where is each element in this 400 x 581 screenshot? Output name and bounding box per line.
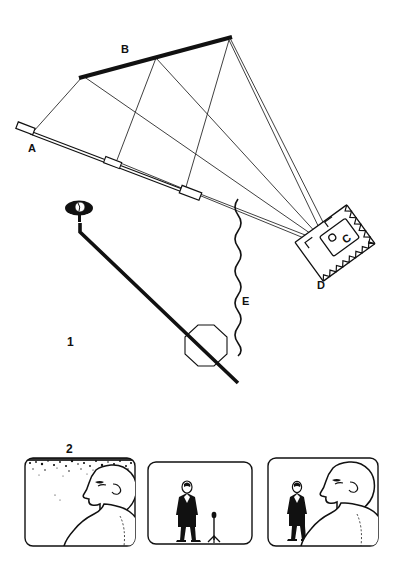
eye-post (78, 215, 81, 222)
microphone-head (212, 512, 217, 518)
figure-canvas: C A B D E 1 2 (0, 0, 400, 581)
frame-left (25, 458, 136, 546)
technical-diagram-svg: C A B D E 1 2 (0, 0, 400, 581)
label-E: E (242, 295, 249, 307)
frame-middle-border (148, 462, 252, 544)
label-figure-1: 1 (67, 335, 74, 349)
label-figure-2: 2 (66, 442, 73, 456)
label-A: A (28, 142, 36, 154)
label-B: B (121, 43, 129, 55)
person-foot-left (176, 540, 186, 542)
label-D: D (317, 279, 325, 291)
frame-right (268, 458, 379, 546)
person-foot-right (191, 540, 201, 542)
frame-middle (148, 462, 252, 544)
person-foot-left (287, 539, 297, 541)
